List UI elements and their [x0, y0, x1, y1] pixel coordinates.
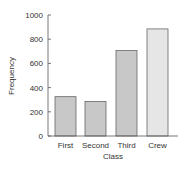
- x-axis-label: Class: [103, 152, 123, 161]
- x-tick-label: Crew: [148, 141, 167, 150]
- x-tick-label: First: [58, 141, 74, 150]
- y-tick-label: 800: [30, 35, 44, 44]
- y-axis-label: Frequency: [7, 57, 16, 95]
- y-tick-label: 400: [30, 84, 44, 93]
- y-tick-label: 1000: [25, 11, 43, 20]
- x-tick-label: Third: [117, 141, 135, 150]
- x-axis: FirstSecondThirdCrew: [48, 136, 178, 150]
- bar-first: [55, 97, 76, 136]
- bar-second: [85, 102, 106, 136]
- y-tick-label: 200: [30, 108, 44, 117]
- y-axis: 02004006008001000: [25, 11, 51, 141]
- bars: [55, 29, 168, 136]
- bar-crew: [147, 29, 168, 136]
- y-tick-label: 0: [39, 132, 44, 141]
- bar-chart: 02004006008001000 FirstSecondThirdCrew C…: [0, 0, 185, 170]
- bar-third: [116, 51, 137, 136]
- x-tick-label: Second: [82, 141, 109, 150]
- y-tick-label: 600: [30, 59, 44, 68]
